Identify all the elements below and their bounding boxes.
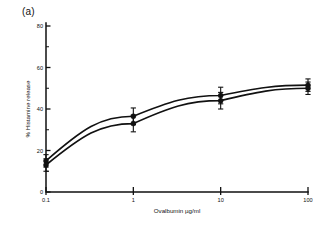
y-axis-title: % Histamine release xyxy=(24,80,31,137)
axis-spines xyxy=(46,23,308,192)
y-tick-label: 0 xyxy=(40,189,43,195)
data-point-marker xyxy=(218,98,223,103)
tick-labels-group: 0204060800.1110100 xyxy=(37,23,313,203)
x-tick-label: 10 xyxy=(218,197,224,203)
y-tick-label: 80 xyxy=(37,23,43,29)
axis-titles-group: Ovalbumin µg/ml% Histamine release xyxy=(24,80,200,214)
x-tick-label: 1 xyxy=(132,197,135,203)
axes-group xyxy=(46,23,308,192)
y-tick-label: 40 xyxy=(37,106,43,112)
series-group xyxy=(43,79,310,171)
ticks-group xyxy=(46,26,308,195)
data-point-marker xyxy=(131,121,136,126)
x-axis-title: Ovalbumin µg/ml xyxy=(154,207,201,214)
y-tick-label: 20 xyxy=(37,148,43,154)
series-line xyxy=(46,85,308,161)
data-point-marker xyxy=(44,163,49,168)
chart-canvas: 0204060800.1110100 Ovalbumin µg/ml% Hist… xyxy=(0,0,331,229)
y-tick-label: 60 xyxy=(37,65,43,71)
figure-panel-a: (a) 0204060800.1110100 Ovalbumin µg/ml% … xyxy=(0,0,331,229)
data-point-marker xyxy=(306,86,311,91)
x-tick-label: 0.1 xyxy=(42,197,50,203)
x-tick-label: 100 xyxy=(303,197,312,203)
